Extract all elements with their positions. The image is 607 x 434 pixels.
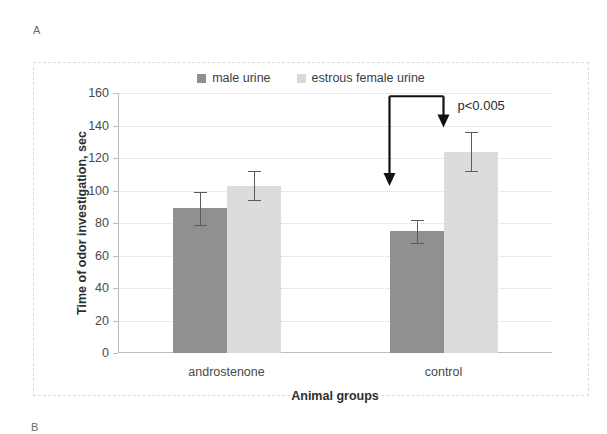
y-tick-mark [113,321,118,322]
panel-label-a: A [33,24,41,36]
legend-item-estrous-female-urine[interactable]: estrous female urine [297,71,425,85]
y-tick-label: 100 [88,184,109,198]
legend-label-estrous-female-urine: estrous female urine [312,71,425,85]
bar-androstenone-estrous-female-urine[interactable] [227,186,281,353]
x-category-label-androstenone: androstenone [188,365,264,379]
y-axis-title: Time of odor investigation, sec [75,93,89,353]
plot-area: 020406080100120140160 androstenonecontro… [118,93,552,353]
y-tick-mark [113,223,118,224]
error-bar-cap-bottom [248,200,261,201]
error-bar-cap-top [411,220,424,221]
x-category-label-control: control [425,365,463,379]
y-tick-label: 0 [102,346,109,360]
y-tick-mark [113,288,118,289]
y-tick-label: 60 [95,249,109,263]
error-bar [471,132,472,171]
estrous-female-urine-swatch-icon [297,74,306,83]
y-tick-label: 140 [88,119,109,133]
error-bar [417,220,418,243]
male-urine-swatch-icon [197,74,206,83]
panel-label-b: B [31,421,39,433]
y-tick-mark [113,126,118,127]
gridline [118,93,552,94]
bar-control-male-urine[interactable] [390,231,444,353]
error-bar-cap-bottom [194,225,207,226]
legend-item-male-urine[interactable]: male urine [197,71,270,85]
bar-control-estrous-female-urine[interactable] [444,152,498,354]
y-tick-mark [113,256,118,257]
error-bar-cap-bottom [411,243,424,244]
y-tick-label: 20 [95,314,109,328]
y-tick-label: 120 [88,151,109,165]
p-value-label: p<0.005 [458,98,505,113]
y-tick-label: 160 [88,86,109,100]
error-bar-cap-top [465,132,478,133]
x-axis-title: Animal groups [118,389,552,403]
error-bar [254,171,255,200]
y-tick-mark [113,191,118,192]
legend-label-male-urine: male urine [212,71,270,85]
y-tick-label: 40 [95,281,109,295]
gridline [118,126,552,127]
y-tick-mark [113,93,118,94]
y-tick-mark [113,353,118,354]
error-bar-cap-top [248,171,261,172]
y-tick-label: 80 [95,216,109,230]
bar-androstenone-male-urine[interactable] [173,208,227,353]
y-tick-mark [113,158,118,159]
error-bar-cap-top [194,192,207,193]
error-bar-cap-bottom [465,171,478,172]
y-axis-title-wrap: Time of odor investigation, sec [48,93,68,353]
error-bar [200,192,201,225]
chart-legend: male urine estrous female urine [34,71,588,85]
chart-container: male urine estrous female urine Time of … [33,62,589,396]
